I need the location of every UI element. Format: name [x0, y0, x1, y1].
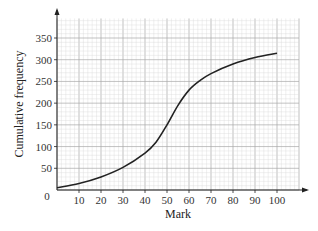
- x-tick-label: 10: [74, 194, 86, 206]
- x-tick-label: 50: [162, 194, 174, 206]
- y-tick-label: 250: [36, 75, 53, 87]
- y-axis-title: Cumulative frequency: [12, 51, 26, 158]
- y-axis-ticks: 50100150200250300350: [36, 32, 58, 174]
- x-tick-label: 40: [140, 194, 152, 206]
- cumulative-frequency-chart: 50100150200250300350 1020304050607080901…: [0, 0, 318, 231]
- x-tick-label: 70: [206, 194, 218, 206]
- x-axis-ticks: 102030405060708090100: [74, 190, 286, 206]
- x-tick-label: 30: [118, 194, 130, 206]
- x-axis-arrow-icon: [302, 188, 309, 193]
- y-tick-label: 50: [41, 162, 53, 174]
- x-tick-label: 80: [228, 194, 240, 206]
- x-tick-label: 20: [96, 194, 108, 206]
- y-tick-label: 300: [36, 54, 53, 66]
- x-tick-label: 90: [250, 194, 262, 206]
- x-tick-label: 60: [184, 194, 196, 206]
- y-tick-label: 350: [36, 32, 53, 44]
- y-tick-label: 200: [36, 97, 53, 109]
- origin-label: 0: [44, 190, 50, 202]
- y-tick-label: 150: [36, 119, 53, 131]
- x-axis-title: Mark: [165, 207, 191, 221]
- y-axis-arrow-icon: [55, 8, 60, 15]
- x-tick-label: 100: [269, 194, 286, 206]
- y-tick-label: 100: [36, 141, 53, 153]
